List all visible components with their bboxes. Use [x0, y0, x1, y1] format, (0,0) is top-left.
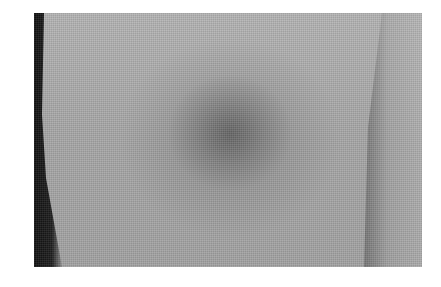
- bruise-photo: [34, 13, 422, 267]
- skin-texture: [34, 13, 422, 267]
